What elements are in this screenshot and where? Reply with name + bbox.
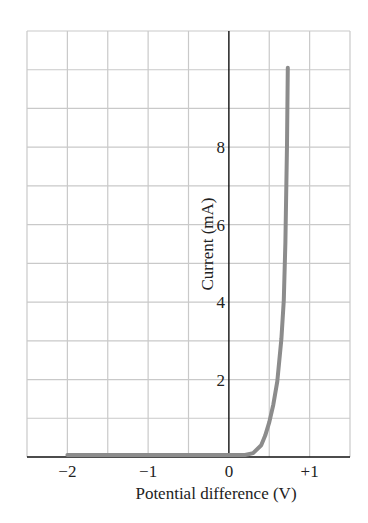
- y-tick-label: 4: [216, 293, 225, 312]
- x-tick-label: −2: [58, 462, 76, 481]
- x-axis-label: Potential difference (V): [135, 484, 296, 503]
- chart: 2468 −2−10+1 Current (mA) Potential diff…: [0, 0, 368, 523]
- iv-curve: [67, 68, 287, 455]
- x-tick-label: +1: [301, 462, 319, 481]
- x-tick-labels: −2−10+1: [58, 462, 318, 481]
- y-tick-label: 8: [216, 138, 225, 157]
- grid-lines: [27, 31, 350, 457]
- x-tick-label: −1: [139, 462, 157, 481]
- y-tick-label: 2: [216, 371, 225, 390]
- y-tick-label: 6: [216, 216, 225, 235]
- y-axis-label: Current (mA): [198, 197, 217, 290]
- x-tick-label: 0: [225, 462, 234, 481]
